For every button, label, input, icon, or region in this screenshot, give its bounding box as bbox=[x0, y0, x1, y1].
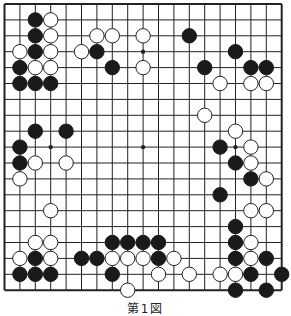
black-stone bbox=[259, 283, 273, 297]
black-stone bbox=[105, 267, 119, 281]
black-stone bbox=[28, 76, 42, 90]
white-stone bbox=[244, 204, 258, 218]
black-stone bbox=[244, 267, 258, 281]
black-stone bbox=[213, 140, 227, 154]
white-stone bbox=[121, 283, 135, 297]
black-stone bbox=[44, 267, 58, 281]
white-stone bbox=[259, 76, 273, 90]
white-stone bbox=[74, 45, 88, 59]
white-stone bbox=[167, 251, 181, 265]
black-stone bbox=[228, 156, 242, 170]
black-stone bbox=[90, 251, 104, 265]
black-stone bbox=[136, 235, 150, 249]
black-stone bbox=[228, 235, 242, 249]
black-stone bbox=[275, 267, 289, 281]
white-stone bbox=[13, 45, 27, 59]
white-stone bbox=[213, 76, 227, 90]
black-stone bbox=[105, 60, 119, 74]
black-stone bbox=[198, 60, 212, 74]
white-stone bbox=[213, 267, 227, 281]
white-stone bbox=[28, 156, 42, 170]
white-stone bbox=[44, 45, 58, 59]
diagram-caption: 第1図 bbox=[0, 299, 291, 316]
white-stone bbox=[90, 29, 104, 43]
black-stone bbox=[13, 267, 27, 281]
black-stone bbox=[13, 60, 27, 74]
black-stone bbox=[90, 45, 104, 59]
white-stone bbox=[259, 204, 273, 218]
black-stone bbox=[228, 283, 242, 297]
white-stone bbox=[136, 29, 150, 43]
white-stone bbox=[244, 235, 258, 249]
black-stone bbox=[44, 76, 58, 90]
white-stone bbox=[136, 60, 150, 74]
white-stone bbox=[105, 29, 119, 43]
white-stone bbox=[44, 251, 58, 265]
white-stone bbox=[44, 60, 58, 74]
white-stone bbox=[244, 251, 258, 265]
black-stone bbox=[259, 251, 273, 265]
white-stone bbox=[13, 172, 27, 186]
black-stone bbox=[13, 140, 27, 154]
white-stone bbox=[44, 29, 58, 43]
black-stone bbox=[228, 219, 242, 233]
black-stone bbox=[74, 251, 88, 265]
white-stone bbox=[28, 60, 42, 74]
black-stone bbox=[59, 124, 73, 138]
white-stone bbox=[198, 108, 212, 122]
white-stone bbox=[121, 251, 135, 265]
black-stone bbox=[259, 60, 273, 74]
white-stone bbox=[244, 156, 258, 170]
black-stone bbox=[244, 172, 258, 186]
white-stone bbox=[59, 156, 73, 170]
white-stone bbox=[28, 235, 42, 249]
white-stone bbox=[228, 267, 242, 281]
black-stone bbox=[182, 29, 196, 43]
black-stone bbox=[228, 45, 242, 59]
black-stone bbox=[228, 251, 242, 265]
star-point bbox=[141, 50, 145, 54]
star-point bbox=[49, 145, 53, 149]
white-stone bbox=[228, 124, 242, 138]
black-stone bbox=[151, 235, 165, 249]
black-stone bbox=[105, 235, 119, 249]
white-stone bbox=[136, 251, 150, 265]
black-stone bbox=[244, 60, 258, 74]
white-stone bbox=[105, 251, 119, 265]
black-stone bbox=[28, 267, 42, 281]
black-stone bbox=[151, 251, 165, 265]
black-stone bbox=[28, 124, 42, 138]
black-stone bbox=[28, 45, 42, 59]
white-stone bbox=[44, 13, 58, 27]
white-stone bbox=[182, 267, 196, 281]
white-stone bbox=[44, 235, 58, 249]
black-stone bbox=[28, 251, 42, 265]
black-stone bbox=[121, 235, 135, 249]
white-stone bbox=[44, 204, 58, 218]
white-stone bbox=[13, 251, 27, 265]
white-stone bbox=[244, 76, 258, 90]
black-stone bbox=[213, 188, 227, 202]
star-point bbox=[233, 145, 237, 149]
black-stone bbox=[13, 156, 27, 170]
star-point bbox=[141, 145, 145, 149]
black-stone bbox=[28, 13, 42, 27]
white-stone bbox=[151, 267, 165, 281]
black-stone bbox=[13, 76, 27, 90]
black-stone bbox=[28, 29, 42, 43]
white-stone bbox=[244, 140, 258, 154]
stones-layer bbox=[13, 13, 289, 298]
white-stone bbox=[259, 172, 273, 186]
